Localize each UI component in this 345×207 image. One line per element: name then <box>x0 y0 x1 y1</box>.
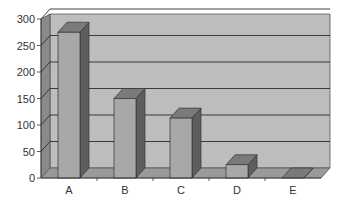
y-tick-label: 300 <box>17 13 35 25</box>
bar-chart: 050100150200250300 ABCDE <box>0 0 345 207</box>
y-tick-label: 50 <box>23 146 35 158</box>
y-tick-label: 150 <box>17 93 35 105</box>
y-tick-label: 250 <box>17 40 35 52</box>
bar-A <box>58 22 89 178</box>
y-axis: 050100150200250300 <box>17 13 41 184</box>
y-tick-label: 0 <box>29 172 35 184</box>
bar-C <box>170 108 201 178</box>
y-tick-label: 200 <box>17 66 35 78</box>
y-tick-label: 100 <box>17 119 35 131</box>
chart-side-wall <box>41 14 50 178</box>
bar-B <box>114 89 145 179</box>
x-tick-label: E <box>289 184 296 196</box>
x-tick-label: D <box>233 184 241 196</box>
x-tick-label: B <box>121 184 128 196</box>
x-tick-label: C <box>177 184 185 196</box>
x-tick-label: A <box>65 184 73 196</box>
x-axis: ABCDE <box>41 178 321 196</box>
